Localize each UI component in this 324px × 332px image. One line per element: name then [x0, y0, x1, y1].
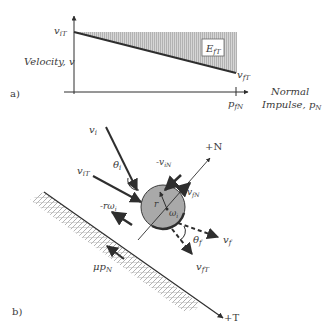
- theta-f-label: θf: [193, 234, 203, 247]
- y-axis-label: Velocity, v: [24, 56, 75, 67]
- figure: EfT viT vfT pfN Velocity, v Normal Impul…: [0, 0, 324, 332]
- v-iT-label: viT: [77, 165, 91, 178]
- v-fT-label: vfT: [237, 69, 251, 82]
- minus-r-omega-i-arrow: [112, 212, 132, 225]
- r-label: r: [154, 199, 159, 209]
- theta-f-arc: [180, 226, 185, 240]
- p-fN-label: pfN: [228, 98, 244, 111]
- theta-i-label: θi: [113, 159, 121, 172]
- v-fN-label: vfN: [187, 187, 200, 199]
- mu-p-N-label: μpN: [93, 261, 113, 274]
- plus-N-label: +N: [205, 141, 222, 152]
- panel-a-label: a): [10, 88, 20, 99]
- x-axis-label-line1: Normal: [270, 86, 309, 97]
- panel-b-label: b): [12, 306, 22, 317]
- panel-b-collision-diagram: +T +N r ωi vi viT θi -viN vfN -rωi μpN: [12, 124, 239, 323]
- v-fT-label: vfT: [196, 261, 210, 274]
- plus-T-axis: [44, 192, 223, 318]
- plus-T-label: +T: [224, 312, 239, 323]
- x-axis-label-line2: Impulse, pN: [261, 99, 322, 112]
- minus-v-iN-label: -viN: [156, 157, 172, 168]
- v-fT-arrow: [172, 229, 192, 254]
- v-iT-label: viT: [54, 25, 68, 38]
- panel-a-velocity-chart: EfT viT vfT pfN Velocity, v Normal Impul…: [10, 16, 322, 112]
- minus-r-omega-i-label: -rωi: [100, 201, 117, 212]
- v-i-label: vi: [89, 124, 97, 137]
- v-f-label: vf: [223, 234, 233, 247]
- v-i-arrow: [106, 127, 137, 190]
